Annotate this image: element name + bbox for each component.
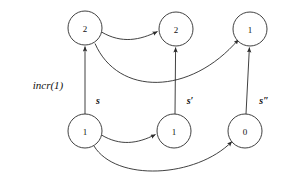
node-bottom-left-label: 1: [83, 127, 88, 137]
edge-s-double-prime-arrow: [246, 48, 249, 115]
node-bottom-right[interactable]: 0: [228, 114, 262, 148]
node-top-right[interactable]: 1: [233, 12, 267, 46]
node-top-middle[interactable]: 2: [159, 12, 193, 46]
node-bottom-right-label: 0: [243, 127, 248, 137]
edge-bottom-left-to-bottom-middle: [102, 135, 156, 143]
edge-label-s: s: [95, 95, 100, 106]
node-top-right-label: 1: [248, 25, 253, 35]
transition-diagram-svg: 2 2 1 1 1 0 s s′ s″ incr(1): [0, 0, 293, 175]
edge-top-left-to-top-middle: [102, 32, 158, 40]
edge-top-left-to-top-right: [95, 40, 239, 83]
edge-bottom-left-to-bottom-right: [94, 142, 232, 172]
node-bottom-left[interactable]: 1: [68, 114, 102, 148]
edge-s-prime-arrow: [175, 48, 176, 115]
node-bottom-middle[interactable]: 1: [157, 114, 191, 148]
diagram-canvas: 2 2 1 1 1 0 s s′ s″ incr(1): [0, 0, 293, 175]
node-top-left-label: 2: [83, 24, 88, 34]
node-top-left[interactable]: 2: [68, 11, 102, 45]
node-bottom-middle-label: 1: [172, 127, 177, 137]
node-top-middle-label: 2: [174, 25, 179, 35]
annotation-incr-label: incr(1): [33, 79, 64, 92]
edge-label-s-prime: s′: [186, 95, 194, 106]
edge-label-s-double-prime: s″: [258, 95, 268, 106]
